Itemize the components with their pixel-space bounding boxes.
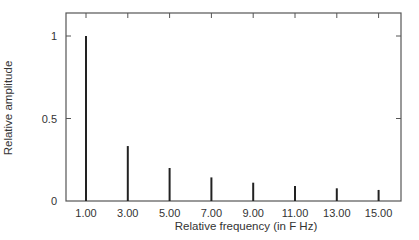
- x-tick-label: 3.00: [117, 207, 138, 219]
- x-tick-label: 1.00: [75, 207, 96, 219]
- y-axis-title: Relative amplitude: [2, 61, 14, 156]
- amplitude-spectrum-chart: 00.51 1.003.005.007.009.0011.0013.0015.0…: [0, 0, 419, 240]
- x-tick-label: 7.00: [201, 207, 222, 219]
- plot-frame: [66, 13, 401, 201]
- y-tick-label: 0: [51, 195, 57, 207]
- x-tick-label: 9.00: [242, 207, 263, 219]
- x-axis-ticks: 1.003.005.007.009.0011.0013.0015.00: [75, 13, 392, 219]
- x-tick-label: 13.00: [323, 207, 351, 219]
- x-tick-label: 5.00: [159, 207, 180, 219]
- y-tick-label: 0.5: [42, 113, 57, 125]
- y-axis-ticks: 00.51: [42, 30, 401, 207]
- spectrum-bars: [86, 36, 379, 201]
- x-tick-label: 15.00: [365, 207, 393, 219]
- x-axis-title: Relative frequency (in F Hz): [175, 220, 318, 232]
- y-tick-label: 1: [51, 30, 57, 42]
- x-tick-label: 11.00: [282, 207, 309, 219]
